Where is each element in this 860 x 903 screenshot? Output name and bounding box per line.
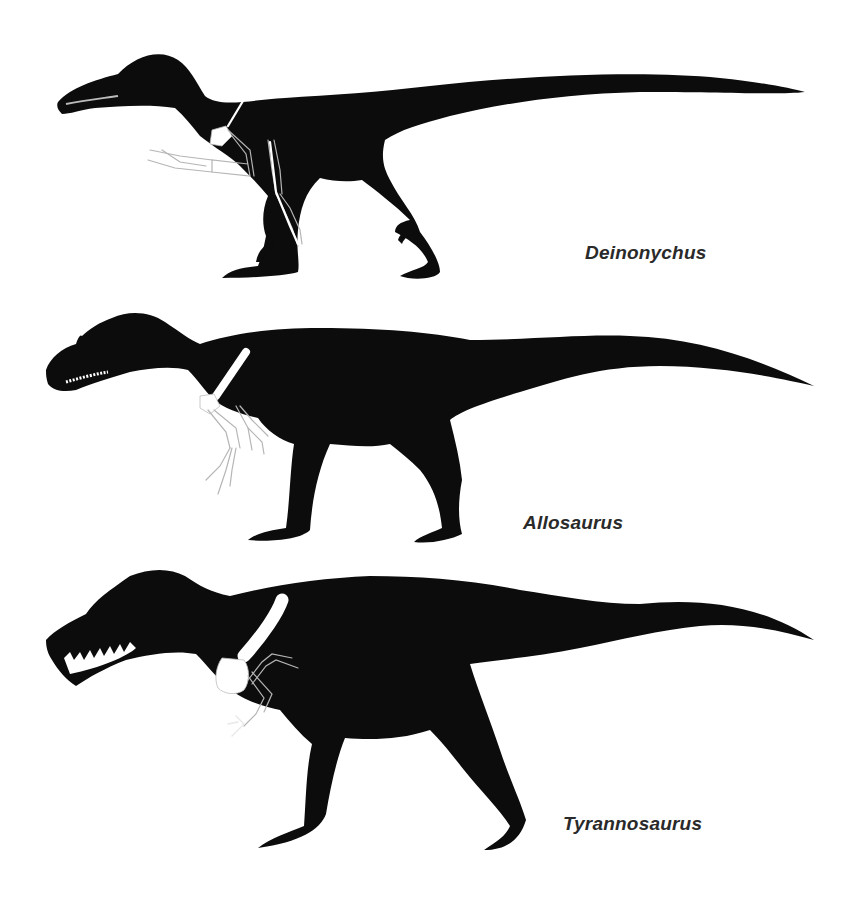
specimen-label-allosaurus: Allosaurus [523, 512, 623, 534]
allosaurus-silhouette [46, 313, 814, 542]
specimen-label-deinonychus: Deinonychus [585, 242, 707, 264]
silhouettes-canvas [0, 0, 860, 903]
specimen-label-tyrannosaurus: Tyrannosaurus [563, 813, 702, 835]
dinosaur-forelimb-comparison-figure: Deinonychus Allosaurus Tyrannosaurus [0, 0, 860, 903]
tyrannosaurus-silhouette [46, 570, 814, 850]
